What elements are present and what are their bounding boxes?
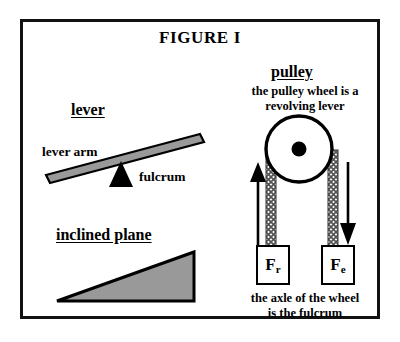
force-box-effort: Fe <box>321 245 355 285</box>
pulley-axle <box>292 142 307 157</box>
inclined-plane-diagram <box>45 244 205 310</box>
pulley-bottom-caption: the axle of the wheel is the fulcrum <box>221 291 389 321</box>
pulley-bottom-caption-line1: the axle of the wheel <box>221 291 389 306</box>
lever-diagram <box>30 125 215 195</box>
force-label-fe: Fe <box>330 255 345 275</box>
figure-canvas: FIGURE I lever lever arm fulcrum incline… <box>0 0 400 342</box>
force-arrow-up <box>250 162 266 245</box>
force-subscript-fe: e <box>341 263 346 275</box>
force-subscript-fr: r <box>276 263 281 275</box>
force-symbol-fe: F <box>330 255 340 274</box>
lever-heading: lever <box>71 101 105 119</box>
inclined-plane-triangle <box>57 252 194 301</box>
pulley-top-caption: the pulley wheel is a revolving lever <box>221 84 389 114</box>
pulley-heading: pulley <box>271 63 313 81</box>
pulley-diagram <box>236 112 368 247</box>
force-symbol-fr: F <box>265 255 275 274</box>
force-arrow-down <box>340 162 356 245</box>
figure-title: FIGURE I <box>0 28 400 48</box>
force-box-resistance: Fr <box>256 245 290 285</box>
force-label-fr: Fr <box>265 255 280 275</box>
inclined-plane-heading: inclined plane <box>56 226 152 244</box>
pulley-top-caption-line1: the pulley wheel is a <box>221 84 389 99</box>
pulley-bottom-caption-line2: is the fulcrum <box>221 306 389 321</box>
